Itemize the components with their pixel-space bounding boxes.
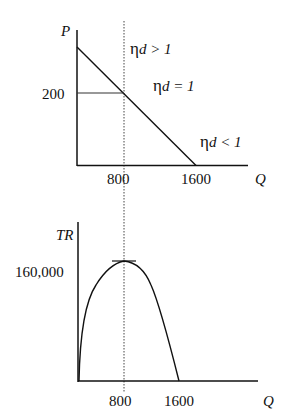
unit-elastic-annotation: ηd = 1 <box>153 77 195 94</box>
bottom-y-axis-label: TR <box>56 228 74 243</box>
total-revenue-curve <box>79 261 179 381</box>
bottom-x-tick-800: 800 <box>109 394 132 409</box>
top-x-tick-800: 800 <box>107 172 130 187</box>
bottom-x-tick-1600: 1600 <box>164 394 194 409</box>
inelastic-annotation: ηd < 1 <box>200 133 242 150</box>
elastic-label: d > 1 <box>139 41 172 57</box>
demand-curve <box>77 47 196 166</box>
bottom-y-tick-160000: 160,000 <box>15 265 64 280</box>
eta-symbol: η <box>200 132 209 151</box>
eta-symbol: η <box>153 76 162 95</box>
top-y-tick-200: 200 <box>42 87 65 102</box>
eta-symbol: η <box>130 39 139 58</box>
top-x-axis-label: Q <box>255 172 266 187</box>
top-x-tick-1600: 1600 <box>181 172 211 187</box>
bottom-x-axis-label: Q <box>263 394 274 409</box>
top-y-axis-label: P <box>61 24 70 39</box>
unit-elastic-label: d = 1 <box>162 78 195 94</box>
chart-canvas <box>0 0 283 412</box>
elastic-annotation: ηd > 1 <box>130 40 172 57</box>
inelastic-label: d < 1 <box>209 134 242 150</box>
